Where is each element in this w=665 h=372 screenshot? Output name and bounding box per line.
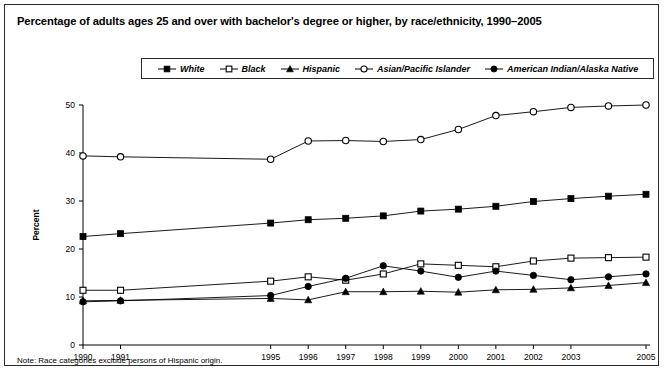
data-point [343,137,349,143]
x-tick-label: 2001 [486,352,505,362]
series-line [83,283,646,301]
data-point [642,279,649,286]
data-point [80,299,86,305]
data-point [380,263,386,269]
data-point [305,138,311,144]
line-chart: 01020304050Percent1990199119951996199719… [5,5,665,372]
data-point [267,292,273,298]
series-black [80,254,649,293]
y-axis-title: Percent [31,209,41,240]
data-point [343,215,349,221]
x-tick-label: 2000 [449,352,468,362]
series-american-indian-alaska-native [80,263,649,305]
data-point [305,283,311,289]
data-point [493,112,499,118]
data-point [455,274,461,280]
data-point [418,136,424,142]
data-point [493,203,499,209]
series-line [83,266,646,302]
data-point [605,103,611,109]
data-point [418,208,424,214]
chart-note: Note: Race categories exclude persons of… [17,356,222,365]
data-point [643,102,649,108]
data-point [455,206,461,212]
data-point [605,274,611,280]
series-asian-pacific-islander [80,102,649,163]
series-white [80,191,649,239]
x-tick-label: 2002 [524,352,543,362]
data-point [305,274,311,280]
data-point [268,278,274,284]
series-line [83,105,646,159]
data-point [530,258,536,264]
data-point [568,104,574,110]
data-point [568,277,574,283]
y-tick-label: 10 [66,292,76,302]
data-point [268,220,274,226]
x-tick-label: 2003 [561,352,580,362]
data-point [343,275,349,281]
x-tick-label: 1999 [411,352,430,362]
y-tick-label: 50 [66,100,76,110]
data-point [380,138,386,144]
data-point [380,213,386,219]
data-point [643,254,649,260]
x-tick-label: 1996 [299,352,318,362]
x-tick-label: 2005 [637,352,656,362]
x-tick-label: 1997 [336,352,355,362]
data-point [418,268,424,274]
data-point [530,272,536,278]
data-point [80,153,86,159]
data-point [80,287,86,293]
data-point [530,198,536,204]
data-point [605,255,611,261]
data-point [455,126,461,132]
data-point [568,255,574,261]
series-line [83,257,646,290]
data-point [530,109,536,115]
series-hispanic [79,279,649,304]
data-point [643,271,649,277]
x-tick-label: 1998 [374,352,393,362]
data-point [380,271,386,277]
y-tick-label: 30 [66,196,76,206]
y-tick-label: 40 [66,148,76,158]
data-point [643,191,649,197]
data-point [117,298,123,304]
data-point [305,217,311,223]
data-point [118,287,124,293]
data-point [117,154,123,160]
data-point [568,196,574,202]
x-tick-label: 1995 [261,352,280,362]
series-line [83,194,646,236]
data-point [418,261,424,267]
data-point [455,262,461,268]
data-point [80,234,86,240]
y-tick-label: 0 [70,340,75,350]
data-point [493,268,499,274]
chart-frame: Percentage of adults ages 25 and over wi… [4,4,659,366]
data-point [118,231,124,237]
data-point [605,193,611,199]
y-tick-label: 20 [66,244,76,254]
data-point [267,156,273,162]
